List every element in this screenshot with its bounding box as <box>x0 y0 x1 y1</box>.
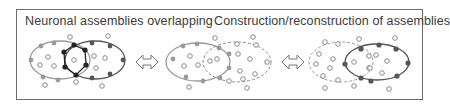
panel-reconstruction <box>309 36 411 92</box>
bidirectional-arrow-1-icon <box>136 55 158 69</box>
panel-construction <box>166 35 271 91</box>
bidirectional-arrow-2-icon <box>282 55 304 69</box>
panel-overlapping <box>29 34 126 89</box>
